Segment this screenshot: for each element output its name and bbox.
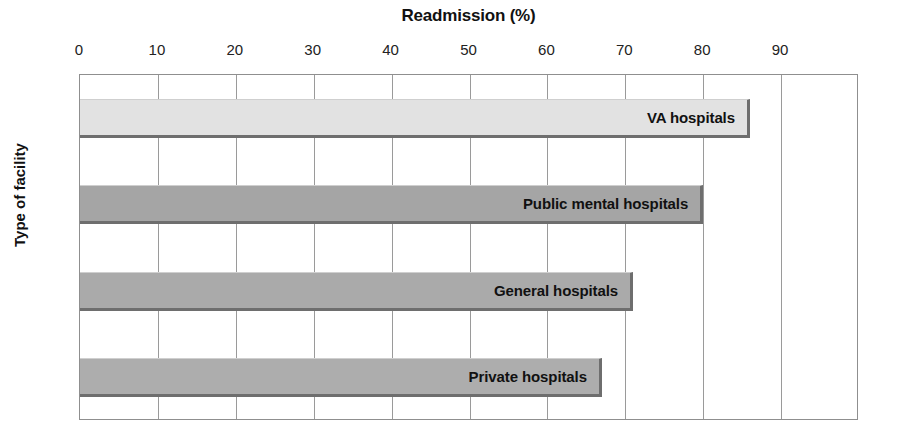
- plot-area: VA hospitalsPublic mental hospitalsGener…: [79, 74, 858, 420]
- x-tick-label: 70: [616, 41, 633, 58]
- bar: Private hospitals: [80, 358, 602, 397]
- chart-title: Readmission (%): [79, 6, 858, 26]
- x-tick-label: 90: [772, 41, 789, 58]
- bar-label: VA hospitals: [647, 109, 747, 126]
- y-axis-label: Type of facility: [11, 143, 28, 247]
- x-tick-label: 80: [694, 41, 711, 58]
- x-tick-label: 0: [75, 41, 83, 58]
- bar-chart: Readmission (%) 0102030405060708090 Type…: [0, 0, 907, 443]
- x-tick-label: 10: [149, 41, 166, 58]
- x-tick-label: 40: [382, 41, 399, 58]
- x-tick-label: 30: [304, 41, 321, 58]
- x-tick-label: 50: [460, 41, 477, 58]
- bar-label: General hospitals: [494, 282, 630, 299]
- bar: Public mental hospitals: [80, 185, 703, 224]
- gridline: [781, 75, 782, 419]
- x-tick-label: 60: [538, 41, 555, 58]
- bar: VA hospitals: [80, 99, 750, 138]
- bar: General hospitals: [80, 272, 633, 311]
- bar-label: Private hospitals: [469, 368, 599, 385]
- x-tick-label: 20: [226, 41, 243, 58]
- bar-label: Public mental hospitals: [523, 195, 700, 212]
